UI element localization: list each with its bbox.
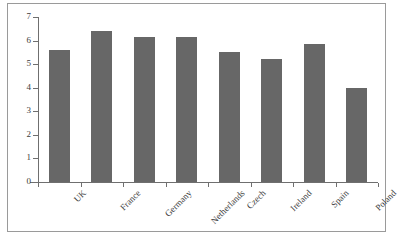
x-axis-tick (123, 183, 124, 187)
y-axis-tick-label: 7 (0, 12, 31, 21)
y-axis-tick-label: 3 (0, 106, 31, 115)
y-axis-tick-label-text: 4 (1, 83, 31, 92)
x-axis-tick (251, 183, 252, 187)
y-axis-tick-label: 1 (0, 153, 31, 162)
y-axis-tick-label: 0 (0, 177, 31, 186)
y-axis-tick-label: 6 (0, 36, 31, 45)
y-axis-tick-label-text: 3 (1, 106, 31, 115)
y-axis-tick-label: 2 (0, 130, 31, 139)
bar (219, 52, 240, 182)
y-axis-tick-label: 5 (0, 59, 31, 68)
bar (49, 50, 70, 182)
y-axis-tick-label-text: 0 (1, 177, 31, 186)
x-axis-tick (336, 183, 337, 187)
x-axis-tick (378, 183, 379, 187)
bar (134, 37, 155, 182)
y-axis-tick-label-text: 6 (1, 36, 31, 45)
x-axis-tick (81, 183, 82, 187)
bar (176, 37, 197, 182)
y-axis-tick-label-text: 1 (1, 153, 31, 162)
x-axis-tick (166, 183, 167, 187)
x-axis-line (30, 182, 378, 183)
x-axis-tick (293, 183, 294, 187)
bar-chart-figure: 01234567 UKFranceGermanyNetherlandsCzech… (0, 0, 400, 239)
bar (261, 59, 282, 182)
y-axis-tick-label-text: 5 (1, 59, 31, 68)
x-axis-tick (208, 183, 209, 187)
bar (304, 44, 325, 182)
plot-area (38, 17, 378, 182)
bar (91, 31, 112, 182)
x-axis-tick (38, 183, 39, 187)
bar (346, 88, 367, 182)
y-axis-tick-label-text: 7 (1, 12, 31, 21)
y-axis-tick-label: 4 (0, 83, 31, 92)
y-axis-tick-label-text: 2 (1, 130, 31, 139)
